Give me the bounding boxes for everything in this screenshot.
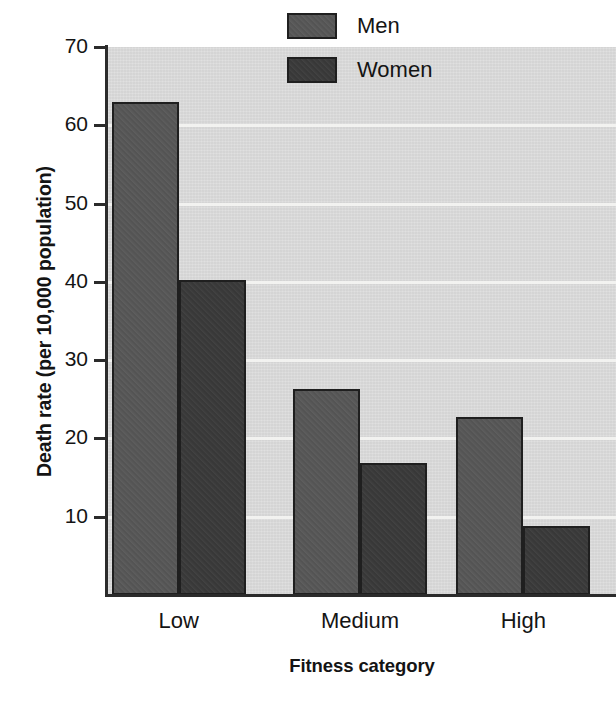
legend-item-men: Men bbox=[287, 8, 508, 44]
gridline bbox=[108, 203, 616, 206]
y-axis-line bbox=[105, 45, 108, 597]
legend-label-men: Men bbox=[357, 15, 400, 37]
bar-men-medium bbox=[293, 389, 360, 595]
bar-women-high bbox=[523, 526, 590, 595]
bar-texture bbox=[362, 465, 425, 593]
legend-swatch-women bbox=[287, 57, 337, 83]
y-axis-tick-label-wrap: 70 bbox=[24, 35, 88, 57]
x-axis-title: Fitness category bbox=[108, 655, 616, 677]
bar-men-high bbox=[456, 417, 523, 595]
y-axis-tick-label-wrap: 50 bbox=[24, 192, 88, 214]
bar-texture bbox=[181, 282, 244, 593]
y-axis-tick-label-wrap: 20 bbox=[24, 426, 88, 448]
x-axis-line bbox=[105, 594, 616, 597]
y-axis-tick-label-wrap: 30 bbox=[24, 348, 88, 370]
y-axis-tick-label: 60 bbox=[28, 113, 88, 134]
legend-item-women: Women bbox=[287, 52, 508, 88]
y-axis-title: Death rate (per 10,000 population) bbox=[33, 72, 56, 572]
bar-chart-figure: Death rate (per 10,000 population) 10203… bbox=[0, 0, 616, 705]
bar-women-medium bbox=[360, 463, 427, 595]
y-axis-tick-label: 40 bbox=[28, 270, 88, 291]
legend-swatch-texture bbox=[289, 15, 335, 37]
y-axis-tick-label-wrap: 40 bbox=[24, 270, 88, 292]
bar-women-low bbox=[179, 280, 246, 595]
y-axis-tick-label: 50 bbox=[28, 192, 88, 213]
gridline bbox=[108, 124, 616, 127]
x-axis-label-medium: Medium bbox=[280, 608, 440, 634]
bar-texture bbox=[295, 391, 358, 593]
x-axis-label-high: High bbox=[443, 608, 603, 634]
bar-men-low bbox=[112, 102, 179, 595]
y-axis-tick-label: 70 bbox=[28, 35, 88, 56]
legend-label-women: Women bbox=[357, 59, 432, 81]
bar-texture bbox=[114, 104, 177, 593]
y-axis-tick-label-wrap: 60 bbox=[24, 113, 88, 135]
legend-swatch-men bbox=[287, 13, 337, 39]
bar-texture bbox=[525, 528, 588, 593]
chart-legend: Men Women bbox=[287, 8, 508, 96]
x-axis-label-low: Low bbox=[99, 608, 259, 634]
y-axis-tick-label-wrap: 10 bbox=[24, 505, 88, 527]
bar-texture bbox=[458, 419, 521, 593]
y-axis-tick-label: 20 bbox=[28, 426, 88, 447]
legend-swatch-texture bbox=[289, 59, 335, 81]
plot-area bbox=[108, 47, 616, 595]
y-axis-tick-label: 10 bbox=[28, 505, 88, 526]
y-axis-tick-label: 30 bbox=[28, 348, 88, 369]
